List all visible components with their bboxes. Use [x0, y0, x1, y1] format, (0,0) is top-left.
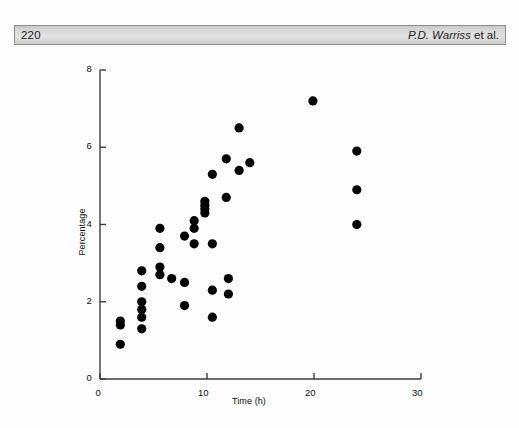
author-attribution: P.D. Warriss et al.	[408, 29, 499, 41]
data-point	[137, 282, 146, 291]
y-axis-title: Percentage	[77, 208, 87, 255]
data-point	[180, 278, 189, 287]
data-point	[308, 96, 317, 105]
data-point	[167, 274, 176, 283]
data-point	[155, 243, 164, 252]
x-axis-title: Time (h)	[232, 396, 266, 406]
y-tick-label: 8	[87, 63, 92, 74]
data-points-group	[116, 96, 362, 349]
data-point	[116, 320, 125, 329]
y-tick-label: 0	[87, 372, 92, 383]
data-point	[208, 286, 217, 295]
data-point	[245, 158, 254, 167]
page-number: 220	[21, 29, 41, 41]
data-point	[224, 274, 233, 283]
data-point	[208, 170, 217, 179]
data-point	[190, 224, 199, 233]
data-point	[180, 231, 189, 240]
data-point	[235, 166, 244, 175]
data-point	[235, 123, 244, 132]
data-point	[137, 313, 146, 322]
x-tick-label: 20	[305, 387, 316, 398]
data-point	[222, 193, 231, 202]
y-tick-label: 6	[87, 140, 92, 151]
x-tick-label: 0	[96, 387, 101, 398]
data-point	[116, 340, 125, 349]
data-point	[155, 270, 164, 279]
axes-group	[100, 70, 421, 379]
author-suffix: et al.	[471, 29, 499, 41]
data-point	[208, 313, 217, 322]
data-point	[352, 220, 361, 229]
y-tick-label: 2	[87, 295, 92, 306]
y-tick-label: 4	[87, 218, 92, 229]
data-point	[224, 289, 233, 298]
data-point	[180, 301, 189, 310]
x-tick-label: 10	[198, 387, 209, 398]
data-point	[137, 266, 146, 275]
data-point	[352, 147, 361, 156]
data-point	[137, 324, 146, 333]
data-point	[208, 239, 217, 248]
data-point	[155, 224, 164, 233]
author-names: P.D. Warriss	[408, 29, 471, 41]
running-header: 220 P.D. Warriss et al.	[14, 25, 506, 45]
data-point	[190, 239, 199, 248]
x-tick-label: 30	[412, 387, 423, 398]
data-point	[222, 154, 231, 163]
scatter-figure: Percentage Time (h) 010203002468	[0, 52, 519, 428]
data-point	[200, 208, 209, 217]
data-point	[352, 185, 361, 194]
